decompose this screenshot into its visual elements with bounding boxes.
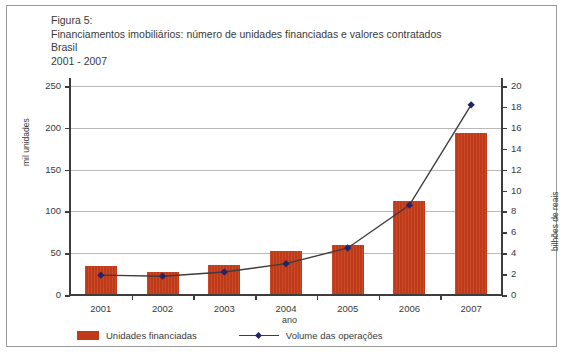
line-marker (159, 273, 166, 280)
y-tick-label-left: 200 (45, 123, 61, 133)
y-tick-label-left: 0 (56, 290, 61, 300)
figure-frame: Figura 5: Financiamentos imobiliários: n… (6, 5, 557, 347)
y-tick-right (502, 295, 507, 297)
x-tick (440, 295, 442, 300)
y-axis-left-title: mil unidades (21, 118, 31, 166)
x-tick-label: 2002 (152, 303, 173, 314)
y-tick-right (502, 191, 507, 193)
y-tick-right (502, 253, 507, 255)
figure-label: Figura 5: (51, 14, 531, 28)
x-tick (132, 295, 134, 300)
x-tick-label: 2005 (337, 303, 358, 314)
figure-period: 2001 - 2007 (51, 55, 531, 69)
legend-label-line: Volume das operações (286, 330, 383, 341)
x-tick (379, 295, 381, 300)
x-axis (69, 294, 503, 296)
x-axis-title: ano (7, 315, 565, 325)
y-tick-label-right: 10 (511, 186, 522, 196)
y-tick-left (65, 253, 70, 255)
line-marker (467, 101, 474, 108)
y-axis-left (69, 78, 71, 295)
y-tick-left (65, 295, 70, 297)
y-tick-label-left: 150 (45, 165, 61, 175)
y-tick-right (502, 149, 507, 151)
y-tick-right (502, 232, 507, 234)
x-tick-label: 2001 (90, 303, 111, 314)
y-tick-label-right: 16 (511, 123, 522, 133)
y-tick-right (502, 170, 507, 172)
y-tick-label-left: 250 (45, 81, 61, 91)
y-tick-right (502, 86, 507, 88)
y-tick-label-right: 12 (511, 165, 522, 175)
y-tick-left (65, 86, 70, 88)
figure-title-block: Figura 5: Financiamentos imobiliários: n… (51, 14, 531, 68)
legend: Unidades financiadas Volume das operaçõe… (77, 330, 383, 341)
y-tick-right (502, 107, 507, 109)
y-tick-label-right: 6 (511, 227, 516, 237)
y-tick-label-right: 14 (511, 144, 522, 154)
y-tick-label-right: 4 (511, 248, 516, 258)
legend-label-bars: Unidades financiadas (106, 330, 197, 341)
plot-area: 0501001502002500246810121416182020012002… (70, 86, 502, 295)
y-tick-label-right: 0 (511, 290, 516, 300)
y-tick-label-right: 18 (511, 102, 522, 112)
y-tick-right (502, 128, 507, 130)
legend-item-line: Volume das operações (239, 330, 383, 341)
line-marker (282, 260, 289, 267)
y-tick-left (65, 170, 70, 172)
y-tick-right (502, 211, 507, 213)
x-tick-label: 2004 (275, 303, 296, 314)
figure-title: Financiamentos imobiliários: número de u… (51, 28, 531, 42)
x-tick (193, 295, 195, 300)
x-tick-label: 2007 (461, 303, 482, 314)
bar-swatch-icon (77, 331, 99, 340)
line-swatch-icon (239, 331, 279, 340)
x-tick-label: 2006 (399, 303, 420, 314)
legend-item-bars: Unidades financiadas (77, 330, 197, 341)
y-tick-left (65, 128, 70, 130)
y-tick-label-right: 2 (511, 269, 516, 279)
y-tick-label-right: 20 (511, 81, 522, 91)
y-tick-right (502, 274, 507, 276)
y-axis-right-title: bilhões de reais (550, 191, 560, 251)
y-tick-label-right: 8 (511, 206, 516, 216)
y-tick-label-left: 50 (50, 248, 61, 258)
x-tick (255, 295, 257, 300)
y-tick-label-left: 100 (45, 206, 61, 216)
y-axis-right (501, 78, 503, 295)
figure-region: Brasil (51, 41, 531, 55)
line-marker (97, 271, 104, 278)
line-series (70, 86, 502, 295)
x-tick-label: 2003 (214, 303, 235, 314)
line-marker (221, 268, 228, 275)
y-tick-left (65, 211, 70, 213)
x-tick (317, 295, 319, 300)
line-path (101, 105, 471, 276)
